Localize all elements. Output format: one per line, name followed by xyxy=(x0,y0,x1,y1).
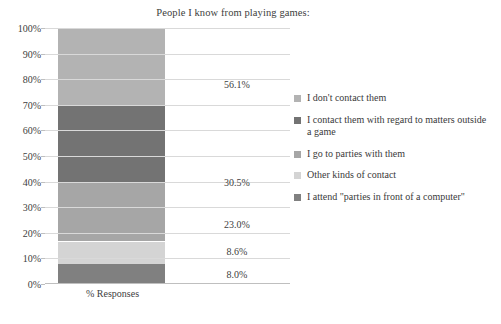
y-axis-tick-label: 50% xyxy=(1,151,41,162)
y-axis-tick-label: 0% xyxy=(1,279,41,290)
legend-item[interactable]: I contact them with regard to matters ou… xyxy=(294,114,499,139)
data-label: 8.6% xyxy=(207,245,267,256)
legend-item-label: Other kinds of contact xyxy=(307,169,396,182)
y-axis-tick-label: 100% xyxy=(1,23,41,34)
y-axis-tick xyxy=(41,207,45,208)
bar-segment[interactable] xyxy=(58,105,165,183)
y-axis-tick xyxy=(41,182,45,183)
gridline xyxy=(45,54,290,55)
gridline xyxy=(45,156,290,157)
gridline xyxy=(45,258,290,259)
y-axis-tick-label: 30% xyxy=(1,202,41,213)
legend-item-label: I go to parties with them xyxy=(307,148,405,161)
x-axis-line xyxy=(45,283,290,284)
legend-item[interactable]: I attend "parties in front of a computer… xyxy=(294,191,499,204)
legend-item-label: I contact them with regard to matters ou… xyxy=(307,114,487,139)
bar-segment[interactable] xyxy=(58,28,165,105)
y-axis-tick xyxy=(41,233,45,234)
plot-area: 56.1%30.5%23.0%8.6%8.0% xyxy=(45,28,290,284)
y-axis-tick-label: 80% xyxy=(1,74,41,85)
y-axis-tick-label: 70% xyxy=(1,99,41,110)
legend-swatch-icon xyxy=(294,95,301,102)
y-axis-tick xyxy=(41,54,45,55)
y-axis-tick xyxy=(41,258,45,259)
y-axis-tick xyxy=(41,284,45,285)
gridline xyxy=(45,28,290,29)
y-axis-tick-label: 20% xyxy=(1,227,41,238)
legend-swatch-icon xyxy=(294,172,301,179)
legend-item[interactable]: I go to parties with them xyxy=(294,148,499,161)
legend-item[interactable]: Other kinds of contact xyxy=(294,169,499,182)
y-axis-tick-label: 10% xyxy=(1,253,41,264)
bar-segment[interactable] xyxy=(58,242,165,264)
y-axis-tick xyxy=(41,105,45,106)
data-label: 23.0% xyxy=(207,218,267,229)
legend-item-label: I don't contact them xyxy=(307,92,386,105)
y-axis-tick xyxy=(41,79,45,80)
gridline xyxy=(45,207,290,208)
stacked-bar-chart: People I know from playing games: 0%10%2… xyxy=(0,0,501,324)
chart-title: People I know from playing games: xyxy=(128,7,338,18)
gridline xyxy=(45,130,290,131)
bar-segment[interactable] xyxy=(58,264,165,284)
y-axis-tick-label: 40% xyxy=(1,176,41,187)
y-axis-tick-label: 90% xyxy=(1,48,41,59)
y-axis-tick xyxy=(41,130,45,131)
y-axis-tick xyxy=(41,28,45,29)
gridline xyxy=(45,105,290,106)
data-label: 30.5% xyxy=(207,176,267,187)
legend-item[interactable]: I don't contact them xyxy=(294,92,499,105)
chart-legend: I don't contact themI contact them with … xyxy=(294,92,499,212)
legend-item-label: I attend "parties in front of a computer… xyxy=(307,191,465,204)
legend-swatch-icon xyxy=(294,117,301,124)
legend-swatch-icon xyxy=(294,194,301,201)
y-axis: 0%10%20%30%40%50%60%70%80%90%100% xyxy=(0,28,41,284)
data-label: 8.0% xyxy=(207,268,267,279)
gridline xyxy=(45,233,290,234)
legend-swatch-icon xyxy=(294,151,301,158)
y-axis-tick xyxy=(41,156,45,157)
y-axis-tick-label: 60% xyxy=(1,125,41,136)
data-label: 56.1% xyxy=(207,79,267,90)
x-axis-category-label: % Responses xyxy=(45,288,180,299)
